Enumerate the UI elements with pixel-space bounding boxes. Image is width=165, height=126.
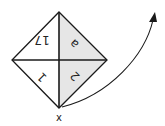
label-top-left: 17 [34, 33, 49, 47]
diagram: 17 a 1 2 x [0, 0, 165, 126]
pivot-label: x [56, 112, 62, 123]
label-bottom-left: 1 [34, 69, 49, 84]
arrowhead-icon [149, 12, 157, 22]
